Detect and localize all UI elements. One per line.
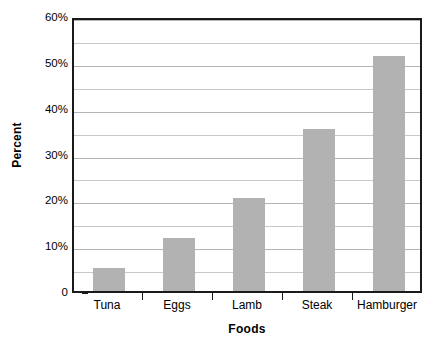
x-axis-tick-labels: TunaEggsLambSteakHamburger [72,298,422,316]
bar-eggs [163,238,195,291]
x-tick-label-eggs: Eggs [163,298,190,312]
x-tick-label-tuna: Tuna [94,298,121,312]
y-tick-label: 40% [24,104,68,116]
bar-hamburger [373,56,405,291]
y-tick-label: 0 [24,287,68,299]
x-tick-label-lamb: Lamb [232,298,262,312]
bar-chart-figure: Percent 010%20%30%40%50%60% TunaEggsLamb… [0,0,437,346]
plot-area [72,18,422,293]
y-tick-label: 60% [24,12,68,24]
y-tick-label: 10% [24,241,68,253]
y-tick-label: 50% [24,58,68,70]
x-tick-label-steak: Steak [302,298,333,312]
bars-layer [74,20,420,291]
bar-steak [303,129,335,291]
bar-tuna [93,268,125,291]
y-tick-label: 20% [24,195,68,207]
x-tick-label-hamburger: Hamburger [357,298,417,312]
bar-lamb [233,198,265,291]
y-tick-mark [82,293,88,294]
y-tick-label: 30% [24,150,68,162]
y-axis-tick-labels: 010%20%30%40%50%60% [16,0,68,346]
x-axis-title: Foods [72,322,422,336]
